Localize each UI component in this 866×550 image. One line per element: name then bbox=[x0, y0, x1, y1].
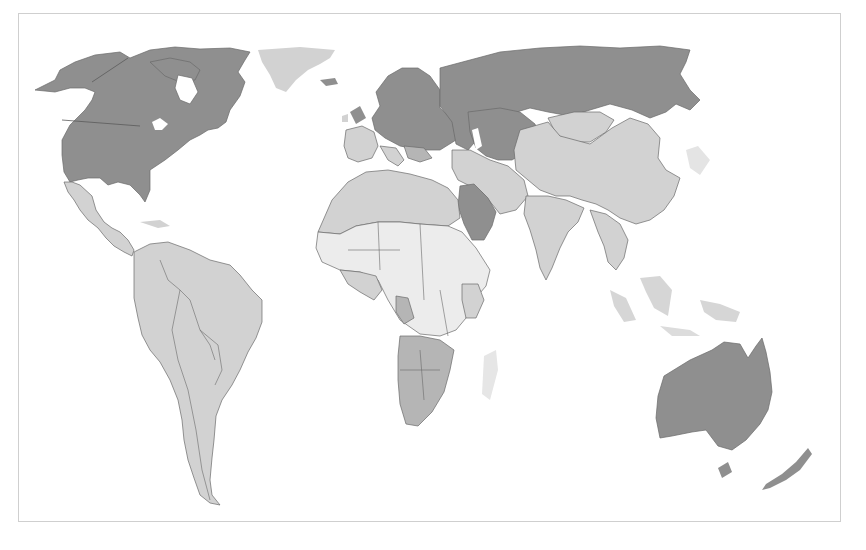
region-europe[interactable] bbox=[342, 68, 456, 166]
region-iceland[interactable] bbox=[320, 78, 338, 86]
region-cuba[interactable] bbox=[140, 220, 170, 228]
region-tasmania[interactable] bbox=[718, 462, 732, 478]
region-australia[interactable] bbox=[656, 338, 772, 450]
region-mexico[interactable] bbox=[64, 182, 134, 256]
region-greenland[interactable] bbox=[258, 47, 335, 92]
region-japan[interactable] bbox=[686, 146, 710, 175]
region-south-america[interactable] bbox=[134, 242, 262, 505]
region-indonesia[interactable] bbox=[610, 276, 740, 336]
region-india[interactable] bbox=[524, 196, 584, 280]
world-map bbox=[0, 0, 866, 550]
region-madagascar[interactable] bbox=[482, 350, 498, 400]
region-new-zealand[interactable] bbox=[762, 448, 812, 490]
region-north-america[interactable] bbox=[35, 47, 250, 202]
